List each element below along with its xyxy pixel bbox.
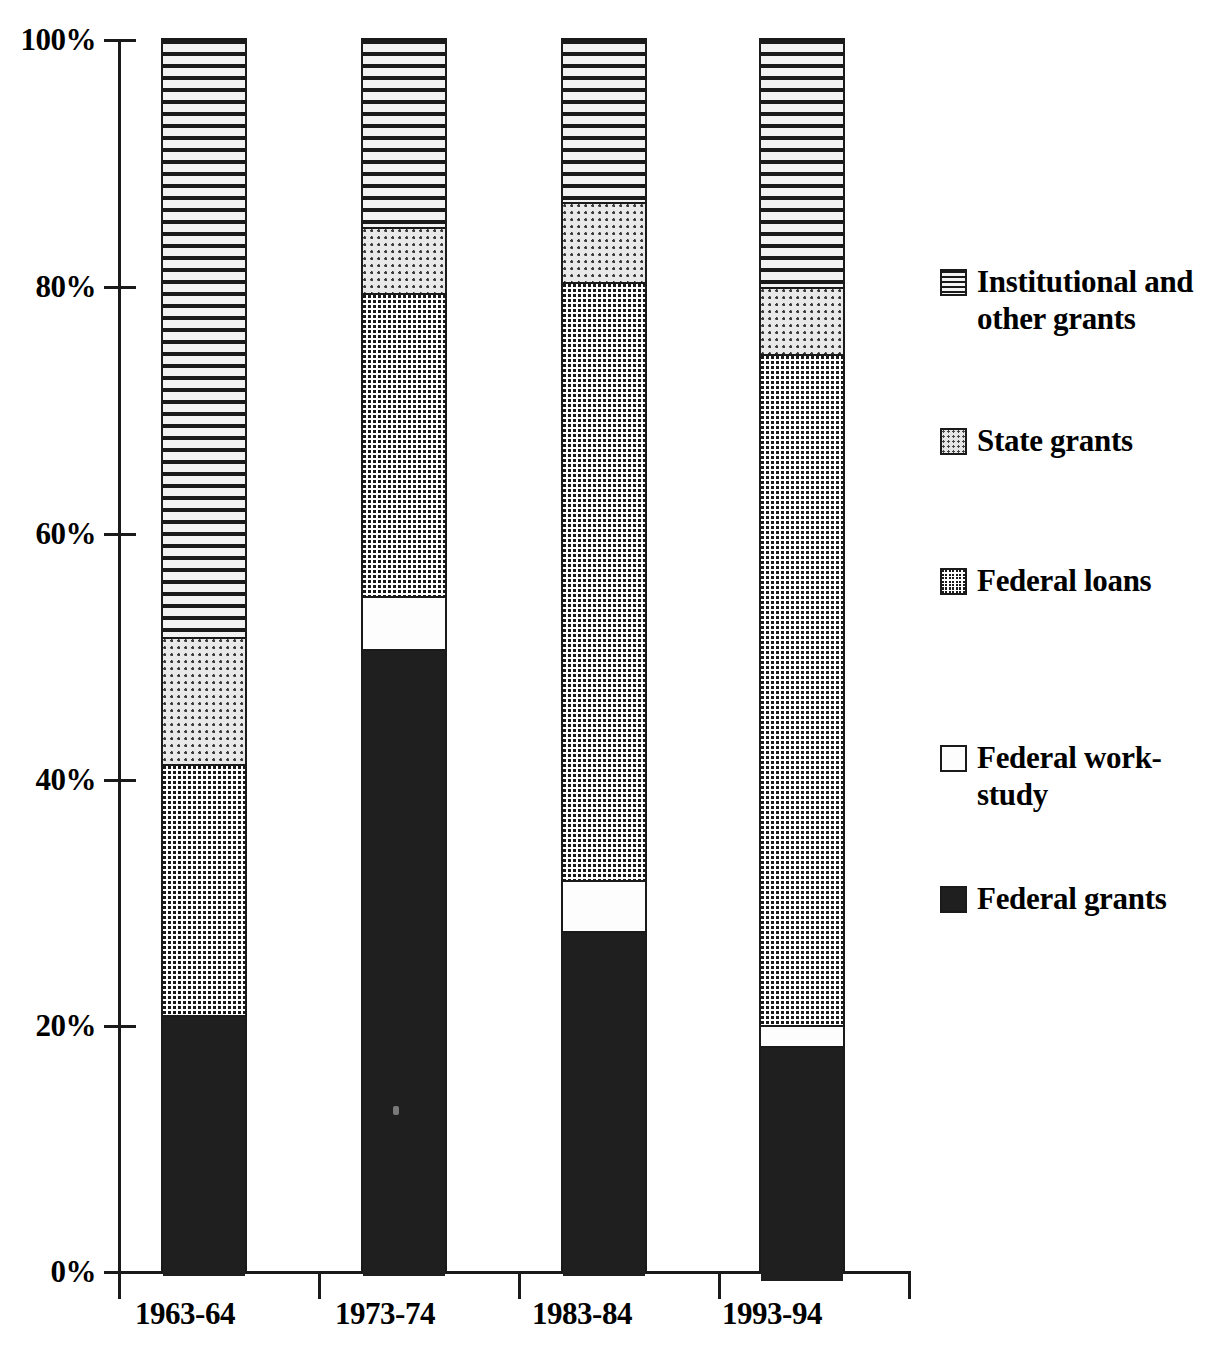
segment-federal-grants: [563, 931, 645, 1276]
dark-grid-swatch-icon: [940, 568, 967, 595]
solid-black-swatch-icon: [940, 886, 967, 913]
segment-federal-loans: [563, 282, 645, 880]
y-axis-line: [118, 40, 121, 1274]
segment-federal-grants: [761, 1046, 843, 1281]
chart-legend: Institutional and other grants State gra…: [930, 0, 1229, 1365]
print-speck: [393, 1106, 399, 1115]
light-dots-swatch-icon: [940, 428, 967, 455]
segment-federal-loans: [761, 354, 843, 1025]
segment-institutional-and-other-grants: [563, 40, 645, 202]
horizontal-lines-swatch-icon: [940, 269, 967, 296]
segment-institutional-and-other-grants: [363, 40, 445, 227]
white-empty-swatch-icon: [940, 745, 967, 772]
segment-federal-work-study: [761, 1025, 843, 1046]
x-tick-0: [118, 1271, 121, 1299]
segment-federal-loans: [363, 293, 445, 596]
legend-item-state-grants[interactable]: State grants: [940, 423, 1229, 460]
bar-1973-74[interactable]: [361, 38, 447, 1274]
legend-item-federal-grants[interactable]: Federal grants: [940, 881, 1229, 918]
y-tick-label-0: 0%: [0, 1256, 96, 1287]
bar-1983-84[interactable]: [561, 38, 647, 1274]
plot-area: 100% 80% 60% 40% 20% 0% 1963-64 1973-74 …: [0, 0, 930, 1365]
x-tick-4: [908, 1271, 911, 1299]
legend-label-federal-work-study: Federal work-study: [977, 740, 1229, 813]
x-axis-label-1983-84: 1983-84: [482, 1296, 682, 1332]
legend-label-state-grants: State grants: [977, 423, 1133, 460]
segment-state-grants: [761, 287, 843, 354]
segment-federal-grants: [363, 649, 445, 1276]
y-tick-label-60: 60%: [0, 518, 96, 549]
segment-state-grants: [563, 202, 645, 282]
bar-1993-94[interactable]: [759, 38, 845, 1274]
y-tick-100: [104, 39, 136, 42]
segment-federal-loans: [163, 764, 245, 1015]
y-tick-40: [104, 779, 136, 782]
x-axis-label-1963-64: 1963-64: [85, 1296, 285, 1332]
y-tick-60: [104, 533, 136, 536]
y-tick-label-20: 20%: [0, 1010, 96, 1041]
x-tick-1: [318, 1271, 321, 1299]
x-axis-label-1973-74: 1973-74: [285, 1296, 485, 1332]
y-tick-label-80: 80%: [0, 271, 96, 302]
segment-institutional-and-other-grants: [163, 40, 245, 637]
segment-state-grants: [163, 637, 245, 764]
legend-item-federal-work-study[interactable]: Federal work-study: [940, 740, 1229, 813]
legend-label-federal-grants: Federal grants: [977, 881, 1167, 918]
legend-item-federal-loans[interactable]: Federal loans: [940, 563, 1229, 600]
bar-1963-64[interactable]: [161, 38, 247, 1274]
legend-item-institutional-and-other-grants[interactable]: Institutional and other grants: [940, 264, 1229, 337]
y-tick-80: [104, 286, 136, 289]
stacked-bar-chart: 100% 80% 60% 40% 20% 0% 1963-64 1973-74 …: [0, 0, 1229, 1365]
x-axis-label-1993-94: 1993-94: [672, 1296, 872, 1332]
segment-state-grants: [363, 227, 445, 293]
y-tick-label-100: 100%: [0, 24, 96, 55]
x-tick-2: [518, 1271, 521, 1299]
legend-label-institutional-and-other-grants: Institutional and other grants: [977, 264, 1229, 337]
y-tick-label-40: 40%: [0, 764, 96, 795]
segment-institutional-and-other-grants: [761, 40, 843, 287]
y-tick-20: [104, 1025, 136, 1028]
segment-federal-grants: [163, 1015, 245, 1276]
x-tick-3: [718, 1271, 721, 1299]
segment-federal-work-study: [363, 596, 445, 649]
legend-label-federal-loans: Federal loans: [977, 563, 1151, 600]
segment-federal-work-study: [563, 880, 645, 931]
